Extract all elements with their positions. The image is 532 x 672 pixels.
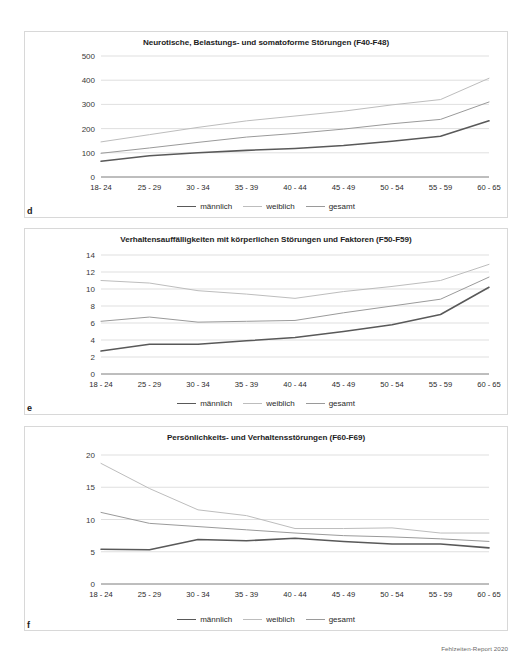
footer-source-note: Fehlzeiten-Report 2020 xyxy=(441,645,508,652)
x-axis-tick-label: 18 - 24 xyxy=(89,590,113,599)
x-axis-tick-label: 50 - 54 xyxy=(380,183,404,192)
y-axis-tick-label: 8 xyxy=(91,302,96,311)
data-line-maennlich xyxy=(101,287,489,351)
chart-plot-area-d: 010020030040050018- 2425 - 2930 - 3435 -… xyxy=(25,32,507,217)
legend-line-icon-gesamt xyxy=(306,206,325,207)
legend-item-gesamt: gesamt xyxy=(306,202,355,211)
legend-item-maennlich: männlich xyxy=(177,202,232,211)
x-axis-tick-label: 30 - 34 xyxy=(186,590,210,599)
panel-letter-d: d xyxy=(27,206,33,216)
y-axis-tick-label: 100 xyxy=(82,149,96,158)
x-axis-tick-label: 30 - 34 xyxy=(186,183,210,192)
y-axis-tick-label: 5 xyxy=(91,548,96,557)
panel-letter-e: e xyxy=(27,403,32,413)
x-axis-tick-label: 50 - 54 xyxy=(380,590,404,599)
data-line-gesamt xyxy=(101,277,489,322)
y-axis-tick-label: 20 xyxy=(86,451,95,460)
y-axis-tick-label: 0 xyxy=(91,580,96,589)
legend-line-icon-weiblich xyxy=(243,403,262,404)
legend-item-weiblich: weiblich xyxy=(243,202,294,211)
legend-item-gesamt: gesamt xyxy=(306,399,355,408)
x-axis-tick-label: 55 - 59 xyxy=(429,590,453,599)
y-axis-tick-label: 15 xyxy=(86,483,95,492)
data-line-maennlich xyxy=(101,538,489,550)
legend-line-icon-maennlich xyxy=(177,403,196,404)
chart-panel-d: Neurotische, Belastungs- und somatoforme… xyxy=(24,31,508,218)
chart-plot-area-f: 0510152018 - 2425 - 2930 - 3435 - 3940 -… xyxy=(25,427,507,630)
y-axis-tick-label: 200 xyxy=(82,125,96,134)
x-axis-tick-label: 25 - 29 xyxy=(138,590,162,599)
x-axis-tick-label: 40 - 44 xyxy=(283,590,307,599)
chart-legend-e: männlich weiblich gesamt xyxy=(25,399,507,408)
x-axis-tick-label: 45 - 49 xyxy=(332,183,356,192)
legend-label-maennlich: männlich xyxy=(200,202,232,211)
x-axis-tick-label: 18- 24 xyxy=(90,183,112,192)
x-axis-tick-label: 40 - 44 xyxy=(283,380,307,389)
x-axis-tick-label: 45 - 49 xyxy=(332,590,356,599)
line-chart-f: 0510152018 - 2425 - 2930 - 3435 - 3940 -… xyxy=(25,427,509,632)
chart-legend-f: männlich weiblich gesamt xyxy=(25,615,507,624)
legend-item-gesamt: gesamt xyxy=(306,615,355,624)
legend-label-maennlich: männlich xyxy=(200,399,232,408)
chart-legend-d: männlich weiblich gesamt xyxy=(25,202,507,211)
legend-label-gesamt: gesamt xyxy=(329,615,355,624)
x-axis-tick-label: 25 - 29 xyxy=(138,380,162,389)
legend-line-icon-weiblich xyxy=(243,206,262,207)
line-chart-d: 010020030040050018- 2425 - 2930 - 3435 -… xyxy=(25,32,509,219)
legend-line-icon-gesamt xyxy=(306,619,325,620)
y-axis-tick-label: 0 xyxy=(91,370,96,379)
legend-line-icon-maennlich xyxy=(177,206,196,207)
data-line-weiblich xyxy=(101,463,489,533)
x-axis-tick-label: 30 - 34 xyxy=(186,380,210,389)
legend-item-weiblich: weiblich xyxy=(243,399,294,408)
x-axis-tick-label: 25 - 29 xyxy=(138,183,162,192)
y-axis-tick-label: 300 xyxy=(82,100,96,109)
x-axis-tick-label: 50 - 54 xyxy=(380,380,404,389)
chart-panel-f: Persönlichkeits- und Verhaltensstörungen… xyxy=(24,426,508,631)
legend-item-maennlich: männlich xyxy=(177,399,232,408)
x-axis-tick-label: 60 - 65 xyxy=(477,380,501,389)
legend-label-gesamt: gesamt xyxy=(329,202,355,211)
y-axis-tick-label: 0 xyxy=(91,173,96,182)
legend-line-icon-maennlich xyxy=(177,619,196,620)
y-axis-tick-label: 500 xyxy=(82,52,96,61)
legend-item-maennlich: männlich xyxy=(177,615,232,624)
data-line-weiblich xyxy=(101,264,489,298)
legend-label-weiblich: weiblich xyxy=(266,202,294,211)
y-axis-tick-label: 6 xyxy=(91,319,96,328)
x-axis-tick-label: 35 - 39 xyxy=(235,380,259,389)
line-chart-e: 0246810121418 - 2425 - 2930 - 3435 - 394… xyxy=(25,229,509,416)
legend-item-weiblich: weiblich xyxy=(243,615,294,624)
chart-plot-area-e: 0246810121418 - 2425 - 2930 - 3435 - 394… xyxy=(25,229,507,414)
x-axis-tick-label: 60 - 65 xyxy=(477,183,501,192)
legend-line-icon-weiblich xyxy=(243,619,262,620)
data-line-weiblich xyxy=(101,78,489,142)
report-page: Neurotische, Belastungs- und somatoforme… xyxy=(0,0,532,672)
data-line-gesamt xyxy=(101,102,489,153)
x-axis-tick-label: 55 - 59 xyxy=(429,183,453,192)
x-axis-tick-label: 35 - 39 xyxy=(235,590,259,599)
chart-panel-e: Verhaltensauffälligkeiten mit körperlich… xyxy=(24,228,508,415)
y-axis-tick-label: 400 xyxy=(82,76,96,85)
y-axis-tick-label: 10 xyxy=(86,285,95,294)
x-axis-tick-label: 18 - 24 xyxy=(89,380,113,389)
y-axis-tick-label: 4 xyxy=(91,336,96,345)
legend-label-weiblich: weiblich xyxy=(266,615,294,624)
legend-line-icon-gesamt xyxy=(306,403,325,404)
panel-letter-f: f xyxy=(27,620,30,630)
y-axis-tick-label: 2 xyxy=(91,353,96,362)
y-axis-tick-label: 12 xyxy=(86,268,95,277)
legend-label-weiblich: weiblich xyxy=(266,399,294,408)
x-axis-tick-label: 35 - 39 xyxy=(235,183,259,192)
x-axis-tick-label: 45 - 49 xyxy=(332,380,356,389)
data-line-gesamt xyxy=(101,512,489,541)
x-axis-tick-label: 40 - 44 xyxy=(283,183,307,192)
y-axis-tick-label: 10 xyxy=(86,516,95,525)
legend-label-gesamt: gesamt xyxy=(329,399,355,408)
legend-label-maennlich: männlich xyxy=(200,615,232,624)
data-line-maennlich xyxy=(101,121,489,161)
x-axis-tick-label: 60 - 65 xyxy=(477,590,501,599)
y-axis-tick-label: 14 xyxy=(86,251,95,260)
x-axis-tick-label: 55 - 59 xyxy=(429,380,453,389)
